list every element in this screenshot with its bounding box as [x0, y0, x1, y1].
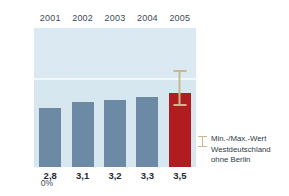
bar-2003[interactable] — [104, 100, 126, 167]
bar-slot-2004 — [131, 28, 163, 167]
error-bar-stem — [179, 70, 181, 106]
bar-2004[interactable] — [136, 97, 158, 167]
x-axis-tick-label: 2001 — [34, 10, 66, 26]
x-axis-tick-label: 2005 — [164, 10, 196, 26]
legend-marker-cap-top — [198, 136, 207, 137]
error-bar-cap-max — [173, 70, 186, 72]
bar-series — [34, 28, 196, 167]
x-axis-year-labels: 2001 2002 2003 2004 2005 — [34, 10, 196, 26]
x-axis-tick-label: 2002 — [66, 10, 98, 26]
x-axis-tick-label: 2004 — [131, 10, 163, 26]
error-bar-marker-icon — [198, 136, 207, 147]
bar-value-label-2005: 3,5 — [164, 169, 196, 183]
bar-value-label-2004: 3,3 — [131, 169, 163, 183]
legend: Min.-/Max.-Wert Westdeutschland ohne Ber… — [196, 134, 288, 166]
bar-slot-2005 — [164, 28, 196, 167]
x-axis-tick-label: 2003 — [99, 10, 131, 26]
error-bar-2005 — [173, 70, 186, 106]
bar-2001[interactable] — [39, 108, 61, 167]
bar-value-labels: 2,8 3,1 3,2 3,3 3,5 — [34, 169, 196, 183]
legend-label-line-1: Min.-/Max.-Wert — [211, 134, 271, 145]
error-bar-cap-min — [173, 104, 186, 106]
legend-label-line-2: Westdeutschland — [211, 145, 271, 156]
bar-slot-2002 — [66, 28, 98, 167]
plot-area — [34, 28, 196, 167]
bar-slot-2003 — [99, 28, 131, 167]
chart-container: 2001 2002 2003 2004 2005 5% 0% — [0, 0, 289, 196]
legend-marker-cap-bottom — [198, 146, 207, 147]
bar-value-label-2002: 3,1 — [66, 169, 98, 183]
bar-value-label-2001: 2,8 — [34, 169, 66, 183]
bar-2002[interactable] — [72, 102, 94, 167]
legend-label-line-3: ohne Berlin — [211, 155, 271, 166]
bar-value-label-2003: 3,2 — [99, 169, 131, 183]
legend-label: Min.-/Max.-Wert Westdeutschland ohne Ber… — [211, 134, 271, 166]
bar-slot-2001 — [34, 28, 66, 167]
